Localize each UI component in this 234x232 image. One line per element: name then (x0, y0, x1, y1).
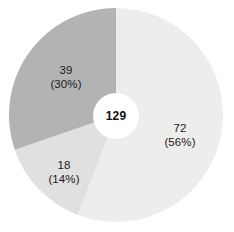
pie-chart: 72 (56%) 18 (14%) 39 (30%) 129 (0, 0, 234, 232)
pie-slice-label-1: 18 (14%) (48, 159, 79, 186)
pie-slice-percent-1: (14%) (48, 172, 79, 186)
donut-center-total: 129 (106, 109, 127, 123)
pie-slice-percent-2: (30%) (50, 77, 81, 91)
pie-slice-label-2: 39 (30%) (50, 64, 81, 91)
pie-slice-value-0: 72 (164, 122, 195, 136)
pie-slice-value-1: 18 (48, 159, 79, 173)
pie-slice-value-2: 39 (50, 64, 81, 78)
pie-slice-percent-0: (56%) (164, 135, 195, 149)
pie-slice-label-0: 72 (56%) (164, 122, 195, 149)
